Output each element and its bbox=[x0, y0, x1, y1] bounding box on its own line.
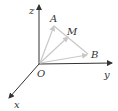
coordinate-diagram: z y x O A M B bbox=[0, 0, 118, 111]
x-axis bbox=[9, 64, 39, 98]
x-axis-label: x bbox=[14, 99, 20, 110]
y-axis bbox=[39, 63, 112, 64]
point-B-label: B bbox=[90, 49, 98, 60]
point-A-label: A bbox=[49, 13, 57, 24]
origin-label: O bbox=[37, 68, 45, 79]
vector-OA bbox=[40, 26, 54, 63]
point-M-label: M bbox=[66, 26, 78, 37]
y-axis-label: y bbox=[103, 69, 110, 80]
z-axis-label: z bbox=[28, 5, 35, 16]
